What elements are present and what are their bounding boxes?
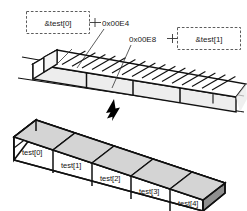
label-0x00E8-text: 0x00E8 — [129, 35, 157, 44]
memory-strip — [18, 50, 247, 112]
label-test0-text: &test[0] — [44, 19, 71, 28]
array-cell-1-label: test[1] — [61, 161, 81, 170]
array-cell-0-label: test[0] — [22, 148, 42, 157]
label-test1-address: &test[1] — [167, 28, 241, 50]
array-memory-figure: &test[0] 0x00E4 0x00E8 &test[1] — [0, 0, 247, 211]
label-0x00E4-text: 0x00E4 — [102, 19, 130, 28]
label-test1-text: &test[1] — [195, 35, 222, 44]
array-boxes: test[0] test[1] test[2] test[ — [14, 120, 225, 211]
array-cell-2-label: test[2] — [100, 174, 120, 183]
down-arrow — [106, 99, 120, 121]
label-test0-address: &test[0] — [27, 12, 102, 34]
figure-canvas: &test[0] 0x00E4 0x00E8 &test[1] — [0, 0, 247, 211]
down-arrow-glyph — [106, 99, 120, 121]
